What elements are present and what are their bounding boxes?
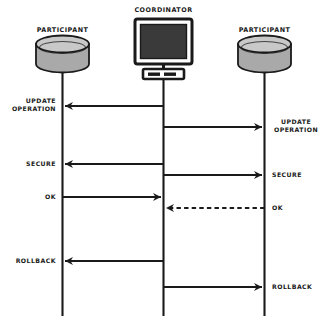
message-label-rollback-right: ROLLBACK xyxy=(272,283,326,291)
actor-title-coordinator: COORDINATOR xyxy=(113,6,214,14)
sequence-diagram: PARTICIPANT COORDINATOR PARTICIPANT UPDA… xyxy=(0,0,327,331)
database-cylinder-icon-left xyxy=(36,36,89,73)
message-label-rollback-left: ROLLBACK xyxy=(4,257,56,265)
message-label-update-operation-right: UPDATE OPERATION xyxy=(270,118,322,134)
database-cylinder-icon-right xyxy=(238,36,291,73)
message-label-secure-left: SECURE xyxy=(6,160,56,168)
message-label-secure-right: SECURE xyxy=(272,171,324,179)
message-label-ok-left: OK xyxy=(6,193,56,201)
message-label-ok-right: OK xyxy=(272,204,324,212)
computer-monitor-icon xyxy=(135,19,192,79)
actor-title-participant-left: PARTICIPANT xyxy=(12,26,113,34)
message-label-update-operation-left: UPDATE OPERATION xyxy=(6,97,56,113)
actor-title-participant-right: PARTICIPANT xyxy=(214,26,315,34)
